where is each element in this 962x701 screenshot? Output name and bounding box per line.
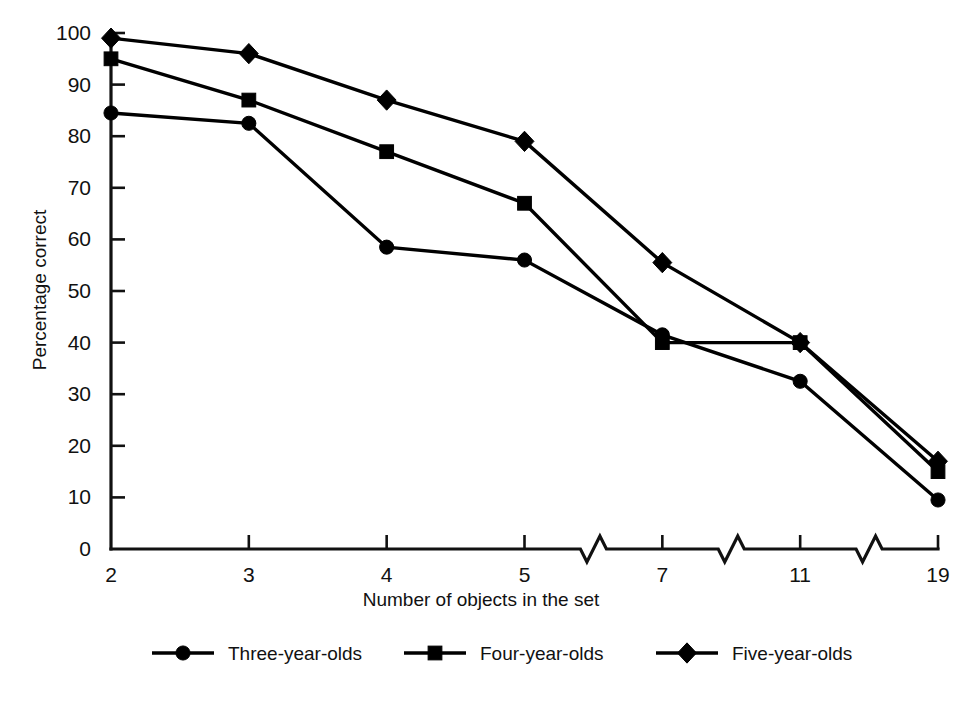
x-tick-label: 5 — [519, 563, 531, 586]
y-tick-label: 80 — [68, 124, 91, 147]
series-line-path — [111, 38, 938, 461]
legend-item-label: Five-year-olds — [732, 643, 852, 664]
x-tick-label: 2 — [105, 563, 117, 586]
y-axis-title-text: Percentage correct — [29, 209, 50, 370]
y-tick-label: 10 — [68, 485, 91, 508]
axes — [111, 32, 938, 562]
x-tick-label: 19 — [926, 563, 949, 586]
x-tick-label: 3 — [243, 563, 255, 586]
square-marker-icon — [428, 646, 442, 660]
x-tick-label: 7 — [656, 563, 668, 586]
x-axis-title-text: Number of objects in the set — [363, 589, 600, 610]
y-tick-label: 30 — [68, 382, 91, 405]
square-marker-icon — [655, 336, 669, 350]
circle-marker-icon — [176, 646, 190, 660]
square-marker-icon — [104, 52, 118, 66]
square-marker-icon — [242, 93, 256, 107]
diamond-marker-icon — [377, 90, 396, 110]
legend-item-label: Four-year-olds — [480, 643, 604, 664]
circle-marker-icon — [104, 106, 118, 120]
diamond-marker-icon — [678, 643, 697, 663]
circle-marker-icon — [517, 253, 531, 267]
square-marker-icon — [518, 196, 532, 210]
line-chart-canvas: Percentage correct 010203040506070809010… — [0, 0, 962, 701]
x-tick-label: 11 — [789, 563, 811, 586]
y-axis-ticks: 0102030405060708090100 — [56, 21, 125, 560]
legend-item-circle[interactable]: Three-year-olds — [152, 643, 362, 664]
data-series-layer — [102, 28, 948, 507]
y-tick-label: 40 — [68, 331, 91, 354]
series-line-path — [111, 113, 938, 500]
y-tick-label: 50 — [68, 279, 91, 302]
square-marker-icon — [380, 145, 394, 159]
diamond-marker-icon — [102, 28, 121, 48]
y-tick-label: 100 — [56, 21, 91, 44]
circle-marker-icon — [931, 493, 945, 507]
circle-marker-icon — [242, 116, 256, 130]
y-tick-label: 90 — [68, 73, 91, 96]
diamond-marker-icon — [239, 43, 258, 63]
y-tick-label: 0 — [79, 537, 91, 560]
circle-marker-icon — [380, 240, 394, 254]
x-tick-label: 4 — [381, 563, 393, 586]
x-axis-ticks: 234571119 — [105, 535, 950, 586]
circle-marker-icon — [793, 374, 807, 388]
legend-item-diamond[interactable]: Five-year-olds — [656, 643, 852, 664]
chart-legend: Three-year-oldsFour-year-oldsFive-year-o… — [152, 643, 852, 664]
legend-item-square[interactable]: Four-year-olds — [404, 643, 604, 664]
y-tick-label: 20 — [68, 434, 91, 457]
y-tick-label: 60 — [68, 227, 91, 250]
series-circle — [104, 106, 945, 507]
legend-item-label: Three-year-olds — [228, 643, 362, 664]
y-axis-title: Percentage correct — [29, 209, 50, 370]
y-tick-label: 70 — [68, 176, 91, 199]
chart-figure: Percentage correct 010203040506070809010… — [0, 0, 962, 701]
